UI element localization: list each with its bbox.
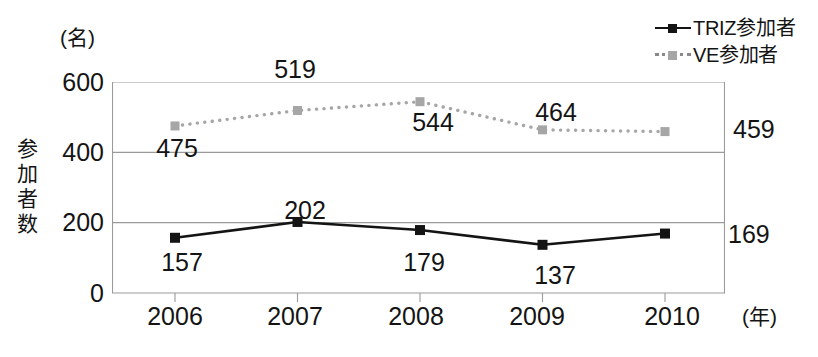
legend-item-triz[interactable]: TRIZ参加者	[655, 14, 818, 41]
data-label-ve-2009: 464	[535, 99, 577, 125]
x-tick-2007: 2007	[235, 302, 355, 330]
data-label-triz-2008: 179	[403, 249, 445, 275]
x-tick-2009: 2009	[477, 302, 597, 330]
x-tick-2006: 2006	[115, 302, 235, 330]
y-tick-200: 200	[4, 210, 104, 235]
data-label-ve-2007: 519	[274, 56, 316, 82]
data-label-triz-2007: 202	[284, 197, 326, 223]
y-tick-400: 400	[4, 140, 104, 165]
data-label-ve-2006: 475	[156, 135, 198, 161]
legend-label-ve: VE参加者	[693, 44, 778, 66]
x-tick-2008: 2008	[356, 302, 476, 330]
y-tick-600: 600	[4, 70, 104, 95]
x-axis-unit-label: (年)	[742, 304, 777, 330]
data-label-ve-2008: 544	[412, 109, 454, 135]
participation-line-chart: TRIZ参加者 VE参加者 (名) 参 加 者 数 600 400 200 0 …	[0, 0, 818, 357]
legend-label-triz: TRIZ参加者	[693, 17, 795, 39]
legend-item-ve[interactable]: VE参加者	[655, 41, 818, 68]
x-axis-tick-labels: 2006 2007 2008 2009 2010	[0, 302, 818, 336]
data-label-triz-2010: 169	[728, 221, 770, 247]
chart-legend: TRIZ参加者 VE参加者	[655, 14, 818, 68]
data-label-ve-2010: 459	[733, 116, 775, 142]
x-tick-2010: 2010	[612, 302, 732, 330]
data-label-triz-2009: 137	[534, 262, 576, 288]
legend-marker-solid-icon	[655, 21, 691, 35]
legend-marker-dotted-icon	[655, 48, 691, 62]
data-label-triz-2006: 157	[161, 249, 203, 275]
